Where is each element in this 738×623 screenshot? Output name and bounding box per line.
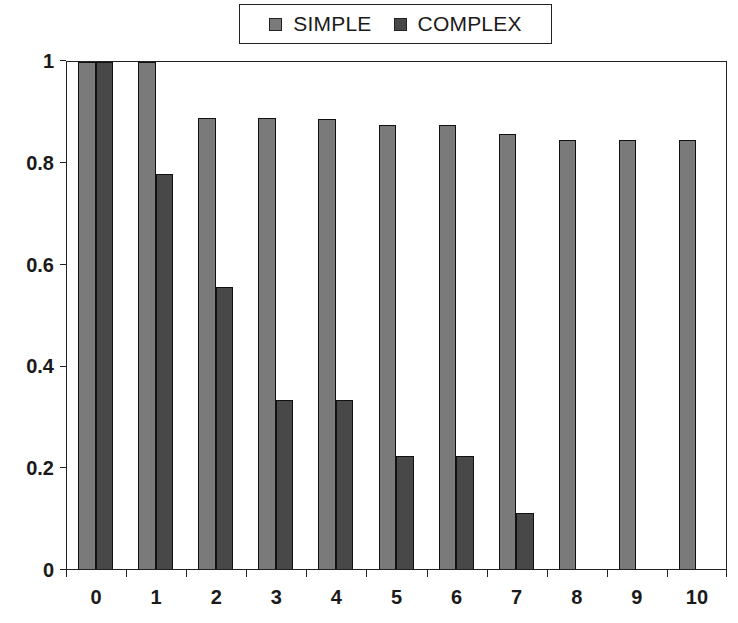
bar-simple-10 (679, 140, 697, 569)
y-tick-label: 1 (43, 50, 54, 73)
x-tick-label: 2 (211, 586, 222, 609)
legend-label-complex: COMPLEX (418, 12, 522, 36)
x-tick-label: 6 (451, 586, 462, 609)
y-tick (60, 467, 66, 468)
x-tick (126, 570, 127, 577)
legend-label-simple: SIMPLE (293, 12, 371, 36)
x-tick (726, 570, 727, 577)
bar-complex-3 (276, 400, 294, 569)
bar-simple-2 (198, 118, 216, 569)
x-tick (246, 570, 247, 577)
x-tick-label: 10 (686, 586, 708, 609)
x-tick (306, 570, 307, 577)
x-tick-label: 9 (631, 586, 642, 609)
chart-legend: SIMPLE COMPLEX (239, 4, 552, 44)
x-tick-label: 1 (151, 586, 162, 609)
y-tick-label: 0.8 (26, 151, 54, 174)
x-tick-label: 7 (511, 586, 522, 609)
y-tick-label: 0.4 (26, 355, 54, 378)
bar-complex-0 (96, 62, 114, 570)
legend-item-complex: COMPLEX (394, 12, 522, 36)
x-tick (186, 570, 187, 577)
bar-simple-5 (379, 125, 397, 569)
bar-simple-1 (138, 62, 156, 570)
legend-item-simple: SIMPLE (269, 12, 371, 36)
bar-simple-7 (499, 134, 517, 569)
x-tick (427, 570, 428, 577)
x-tick (366, 570, 367, 577)
bar-simple-0 (78, 62, 96, 570)
x-tick (667, 570, 668, 577)
bar-simple-3 (258, 118, 276, 569)
plot-area (66, 61, 727, 570)
bar-complex-5 (396, 456, 414, 569)
legend-swatch-simple (269, 18, 282, 31)
x-tick (66, 570, 67, 577)
y-tick (60, 366, 66, 367)
x-tick-label: 8 (571, 586, 582, 609)
x-tick-label: 4 (331, 586, 342, 609)
x-tick-label: 0 (90, 586, 101, 609)
bar-simple-4 (318, 119, 336, 569)
x-tick (487, 570, 488, 577)
y-tick (60, 162, 66, 163)
legend-swatch-complex (394, 18, 407, 31)
y-tick (60, 60, 66, 61)
y-tick-label: 0 (43, 559, 54, 582)
y-tick-label: 0.6 (26, 253, 54, 276)
x-tick (607, 570, 608, 577)
x-tick (547, 570, 548, 577)
y-tick-label: 0.2 (26, 457, 54, 480)
bar-complex-6 (456, 456, 474, 569)
y-tick (60, 264, 66, 265)
bar-complex-7 (516, 513, 534, 569)
bar-simple-9 (619, 140, 637, 569)
bar-complex-1 (156, 174, 174, 569)
x-tick-label: 3 (271, 586, 282, 609)
bar-complex-2 (216, 287, 234, 569)
y-tick (60, 569, 66, 570)
bar-complex-4 (336, 400, 354, 569)
bar-simple-8 (559, 140, 577, 569)
x-tick-label: 5 (391, 586, 402, 609)
bar-simple-6 (439, 125, 457, 569)
